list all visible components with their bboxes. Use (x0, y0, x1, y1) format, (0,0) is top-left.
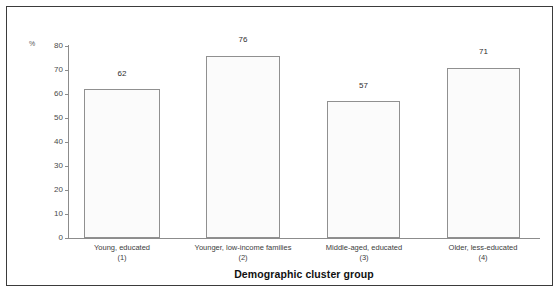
x-axis-line (68, 238, 540, 239)
bar-value-2: 76 (206, 35, 280, 44)
bar-middle-aged-educated[interactable] (327, 101, 400, 238)
y-tick-label-70: 70 (29, 66, 63, 74)
y-tick-label-0: 0 (29, 234, 63, 242)
chart-figure: % 80 70 60 50 40 30 20 10 0 62 76 57 (0, 0, 560, 297)
bar-older-less-educated[interactable] (447, 68, 520, 238)
x-category-number-1: (1) (59, 253, 185, 263)
x-category-name-2: Younger, low-income families (195, 243, 292, 252)
x-category-label-2: Younger, low-income families (2) (175, 243, 311, 263)
chart-frame: % 80 70 60 50 40 30 20 10 0 62 76 57 (6, 6, 553, 286)
y-tick-label-10: 10 (29, 210, 63, 218)
y-tick-label-30: 30 (29, 162, 63, 170)
x-category-name-1: Young, educated (94, 243, 150, 252)
bar-young-educated[interactable] (84, 89, 160, 238)
x-category-name-4: Older, less-educated (449, 243, 518, 252)
bar-value-3: 57 (327, 81, 400, 90)
x-category-label-3: Middle-aged, educated (3) (301, 243, 427, 263)
y-tick-label-50: 50 (29, 114, 63, 122)
x-category-number-3: (3) (301, 253, 427, 263)
y-tick-label-20: 20 (29, 186, 63, 194)
x-category-number-2: (2) (175, 253, 311, 263)
x-category-label-4: Older, less-educated (4) (425, 243, 541, 263)
y-tick-label-60: 60 (29, 90, 63, 98)
bar-value-1: 62 (84, 69, 160, 78)
x-category-label-1: Young, educated (1) (59, 243, 185, 263)
y-tick-label-80: 80 (29, 42, 63, 50)
y-tick-mark-0 (65, 238, 69, 239)
x-axis-title: Demographic cluster group (69, 268, 539, 280)
bar-value-4: 71 (447, 47, 520, 56)
y-tick-label-40: 40 (29, 138, 63, 146)
bar-younger-low-income-families[interactable] (206, 56, 280, 238)
x-category-number-4: (4) (425, 253, 541, 263)
x-category-name-3: Middle-aged, educated (326, 243, 402, 252)
